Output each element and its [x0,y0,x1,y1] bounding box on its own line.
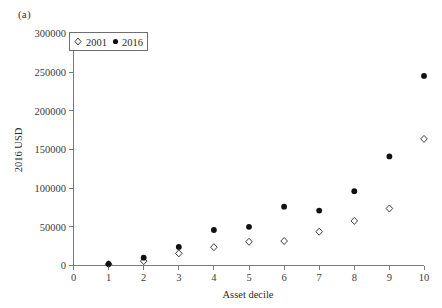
point-2001-d6 [281,238,288,245]
series-2001-points [105,135,427,267]
point-2016-d10 [421,73,427,79]
chart-legend: 2001 2016 [70,33,148,51]
point-2001-d9 [386,205,393,212]
y-tick-label-100000: 100000 [35,183,67,194]
x-tick-label-0: 0 [71,272,76,283]
point-2001-d8 [351,217,358,224]
legend-label-2016: 2016 [122,37,143,48]
scatter-chart-figure: (a) 0 50000 100000 150000 200000 250000 … [0,0,442,308]
y-axis-title: 2016 USD [13,127,24,172]
point-2001-d7 [316,228,323,235]
x-tick-label-9: 9 [387,272,392,283]
point-2016-d3 [176,244,182,250]
point-2016-d2 [141,255,147,261]
point-2016-d7 [316,208,322,214]
point-2001-d10 [421,135,428,142]
point-2001-d4 [211,244,218,251]
point-2001-d3 [176,250,183,257]
x-tick-label-8: 8 [352,272,357,283]
point-2001-d5 [246,238,253,245]
series-2016-points [106,73,427,267]
point-2016-d6 [281,204,287,210]
x-tick-label-3: 3 [176,272,181,283]
x-tick-label-2: 2 [141,272,146,283]
x-tick-label-6: 6 [281,272,286,283]
x-axis-ticks [74,266,425,271]
y-tick-label-250000: 250000 [35,67,67,78]
y-tick-label-300000: 300000 [35,28,67,39]
y-tick-label-200000: 200000 [35,106,67,117]
point-2016-d5 [246,224,252,230]
point-2016-d1 [106,261,112,267]
x-tick-label-7: 7 [317,272,322,283]
x-tick-label-1: 1 [106,272,111,283]
x-axis-title: Asset decile [222,289,273,300]
y-axis-ticks [69,34,74,266]
point-2016-d8 [351,188,357,194]
x-tick-label-4: 4 [211,272,217,283]
y-tick-label-0: 0 [61,260,66,271]
point-2016-d4 [211,227,217,233]
chart-plot-area: 0 50000 100000 150000 200000 250000 3000… [0,0,442,308]
legend-label-2001: 2001 [86,37,107,48]
point-2016-d9 [387,154,393,160]
x-tick-label-10: 10 [419,272,430,283]
y-tick-label-150000: 150000 [35,144,67,155]
y-tick-label-50000: 50000 [40,222,66,233]
legend-marker-2016-icon [113,39,118,44]
x-tick-label-5: 5 [246,272,251,283]
